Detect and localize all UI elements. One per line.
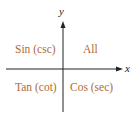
quadrant-4-label: Cos (sec): [70, 82, 113, 94]
quadrant-1-label: All: [83, 44, 98, 56]
y-axis-arrow-icon: [61, 21, 66, 28]
axes-graphic: [0, 0, 135, 118]
quadrant-2-label: Sin (csc): [15, 44, 56, 56]
x-axis-arrow-icon: [116, 67, 123, 72]
y-axis-label: y: [59, 6, 64, 17]
quadrant-3-label: Tan (cot): [15, 82, 57, 94]
quadrant-sign-diagram: y x Sin (csc) All Tan (cot) Cos (sec): [0, 0, 135, 118]
x-axis-label: x: [125, 63, 130, 74]
